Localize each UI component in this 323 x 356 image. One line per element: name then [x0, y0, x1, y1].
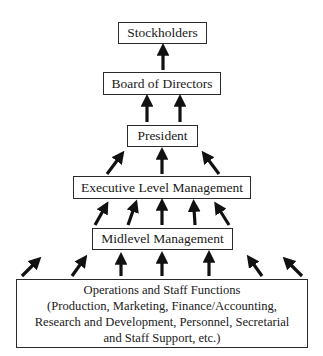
arrow-up-left-icon [219, 209, 229, 225]
arrow-up-icon [194, 208, 195, 225]
arrow-up-right-icon [72, 262, 82, 276]
arrow-up-right-icon [22, 263, 35, 276]
arrow-up-left-icon [207, 158, 219, 174]
arrow-up-left-icon [289, 263, 302, 276]
arrow-up-right-icon [107, 158, 119, 174]
arrow-up-right-icon [95, 209, 104, 225]
arrows-layer [0, 0, 323, 356]
arrow-up-right-icon [128, 208, 134, 225]
arrow-up-left-icon [252, 262, 262, 276]
